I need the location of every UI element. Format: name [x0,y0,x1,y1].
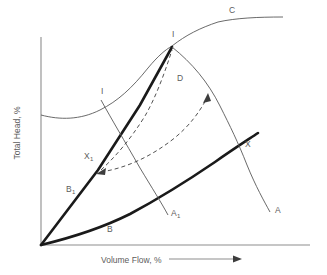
label-X: X [245,139,251,149]
label-A1-sub: 1 [177,213,181,219]
label-X1-sub: 1 [90,156,94,162]
x-axis-label: Volume Flow, % [101,255,161,265]
label-I-peak: I [172,29,175,39]
label-X1-text: X [84,151,90,161]
curve-dashed-lower [101,98,207,172]
label-B: B [107,224,113,234]
label-A1: A1 [171,208,180,218]
label-A: A [275,205,281,215]
label-D: D [177,73,183,83]
x-axis-direction-arrowhead [233,256,242,263]
curve-B1 [41,47,172,245]
arrowhead-upper-right [203,93,211,103]
line-A [172,47,270,212]
line-A1 [101,100,168,215]
chart-figure [0,0,327,275]
chart-root: Total Head, % Volume Flow, % C I I D X X… [0,0,327,275]
label-B1: B1 [66,184,75,194]
label-B1-text: B [66,184,72,194]
label-B1-sub: 1 [72,189,76,195]
label-X1: X1 [84,151,93,161]
y-axis-label: Total Head, % [12,95,22,171]
label-I-left: I [101,86,104,96]
label-C: C [229,5,235,15]
label-A1-text: A [171,208,177,218]
